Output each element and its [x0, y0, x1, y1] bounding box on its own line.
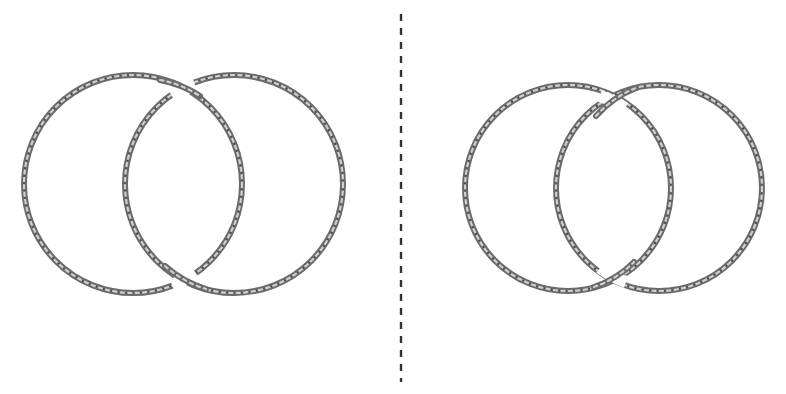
- left-hopf-link: [24, 75, 343, 293]
- link-diagram: [0, 0, 786, 394]
- left-link-ring-a: [24, 75, 242, 293]
- right-hopf-link: [465, 85, 762, 291]
- right-link-ring-b: [556, 85, 762, 291]
- right-link-ring-a: [465, 85, 671, 291]
- left-link-ring-b: [125, 75, 343, 293]
